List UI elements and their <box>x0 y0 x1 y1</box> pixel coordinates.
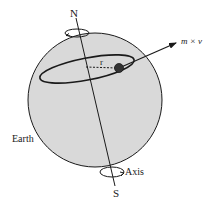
earth-label: Earth <box>12 133 34 144</box>
momentum-label: m × v <box>181 36 202 46</box>
axis-label: Axis <box>125 166 144 177</box>
north-rotation-arrow-icon <box>66 34 70 37</box>
radius-label: r <box>100 57 103 67</box>
south-label: S <box>113 187 119 199</box>
mass-point <box>115 64 124 73</box>
earth-angular-momentum-diagram: N S r m × v Earth Axis <box>0 0 215 206</box>
north-label: N <box>70 7 78 19</box>
